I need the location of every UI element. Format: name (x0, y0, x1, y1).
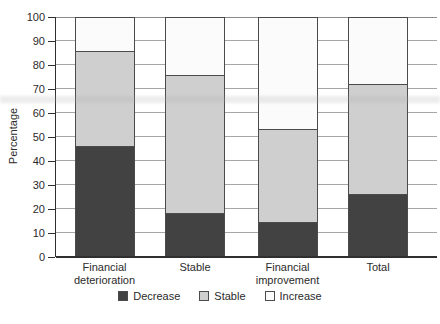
legend-item-decrease: Decrease (118, 290, 180, 302)
segment-decrease-financial-deterioration (76, 146, 134, 256)
stacked-bar-chart-figure: 0102030405060708090100 Percentage Financ… (0, 0, 440, 324)
segment-increase-total (349, 18, 407, 84)
y-tick-label-60: 60 (15, 107, 45, 120)
y-tick-40 (48, 161, 55, 162)
y-tick-label-100: 100 (15, 11, 45, 24)
segment-stable-stable (166, 75, 224, 213)
bar-total (348, 17, 408, 257)
segment-stable-financial-deterioration (76, 51, 134, 146)
y-axis-line (55, 17, 56, 257)
bar-stable (165, 17, 225, 257)
segment-increase-stable (166, 18, 224, 75)
legend: DecreaseStableIncrease (0, 290, 440, 302)
y-tick-label-0: 0 (15, 251, 45, 264)
y-tick-30 (48, 185, 55, 186)
legend-item-stable: Stable (199, 290, 245, 302)
legend-swatch-decrease (118, 291, 128, 301)
legend-item-increase: Increase (265, 290, 322, 302)
y-tick-label-10: 10 (15, 227, 45, 240)
y-tick-0 (48, 257, 55, 258)
x-category-label-total: Total (332, 261, 424, 274)
legend-label-increase: Increase (280, 290, 322, 302)
bar-financial-deterioration (75, 17, 135, 257)
y-tick-label-50: 50 (15, 131, 45, 144)
segment-increase-financial-improvement (259, 18, 317, 129)
x-category-label-stable: Stable (149, 261, 241, 274)
y-tick-10 (48, 233, 55, 234)
bar-financial-improvement (258, 17, 318, 257)
segment-decrease-financial-improvement (259, 222, 317, 256)
y-axis-title: Percentage (7, 91, 19, 181)
y-tick-60 (48, 113, 55, 114)
y-tick-label-40: 40 (15, 155, 45, 168)
segment-decrease-stable (166, 213, 224, 256)
y-tick-90 (48, 41, 55, 42)
segment-increase-financial-deterioration (76, 18, 134, 51)
legend-swatch-increase (265, 291, 275, 301)
y-tick-100 (48, 17, 55, 18)
x-category-label-financial-deterioration: Financial deterioration (59, 261, 151, 287)
y-tick-label-80: 80 (15, 59, 45, 72)
plot-area (56, 17, 437, 257)
x-axis-line (56, 256, 437, 258)
legend-label-decrease: Decrease (133, 290, 180, 302)
y-tick-50 (48, 137, 55, 138)
segment-stable-financial-improvement (259, 129, 317, 222)
legend-swatch-stable (199, 291, 209, 301)
y-tick-20 (48, 209, 55, 210)
y-tick-label-20: 20 (15, 203, 45, 216)
segment-stable-total (349, 84, 407, 194)
x-category-label-financial-improvement: Financial improvement (242, 261, 334, 287)
legend-label-stable: Stable (214, 290, 245, 302)
y-tick-label-70: 70 (15, 83, 45, 96)
segment-decrease-total (349, 194, 407, 256)
y-tick-80 (48, 65, 55, 66)
y-tick-70 (48, 89, 55, 90)
y-tick-label-30: 30 (15, 179, 45, 192)
y-tick-label-90: 90 (15, 35, 45, 48)
